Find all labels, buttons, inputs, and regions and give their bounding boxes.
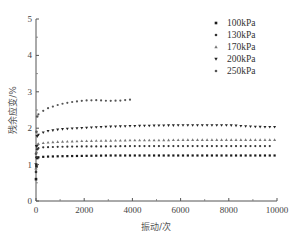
x-tick-label: 2000: [75, 205, 94, 215]
legend-label: 250kPa: [227, 66, 256, 76]
residual-strain-chart: 0123450200040006000800010000 100kPa130kP…: [0, 0, 300, 237]
legend-label: 130kPa: [227, 30, 256, 40]
series-170kPa: [34, 138, 276, 169]
y-tick-label: 4: [28, 50, 33, 60]
x-axis-title: 振动/次: [141, 221, 171, 232]
legend-item-200kPa: 200kPa: [214, 54, 256, 64]
x-tick-label: 4000: [123, 205, 142, 215]
series-250kPa: [35, 99, 131, 155]
y-tick-label: 2: [28, 123, 33, 133]
y-tick-label: 1: [28, 160, 33, 170]
legend-label: 170kPa: [227, 42, 256, 52]
legend-item-250kPa: 250kPa: [215, 66, 257, 76]
y-tick-label: 5: [28, 14, 33, 24]
legend: 100kPa130kPa170kPa200kPa250kPa: [214, 18, 256, 76]
legend-item-130kPa: 130kPa: [215, 30, 257, 40]
x-tick-label: 0: [34, 205, 39, 215]
series-100kPa: [35, 154, 276, 180]
series-130kPa: [35, 145, 271, 173]
plot-area: [34, 99, 276, 181]
x-tick-label: 10000: [266, 205, 289, 215]
legend-label: 100kPa: [227, 18, 256, 28]
x-tick-label: 8000: [220, 205, 239, 215]
y-tick-label: 3: [28, 87, 33, 97]
legend-label: 200kPa: [227, 54, 256, 64]
legend-item-100kPa: 100kPa: [215, 18, 257, 28]
series-200kPa: [34, 124, 276, 166]
y-axis-title: 残余应变/%: [7, 86, 18, 134]
y-tick-label: 0: [28, 196, 33, 206]
legend-item-170kPa: 170kPa: [214, 42, 256, 52]
x-tick-label: 6000: [172, 205, 191, 215]
